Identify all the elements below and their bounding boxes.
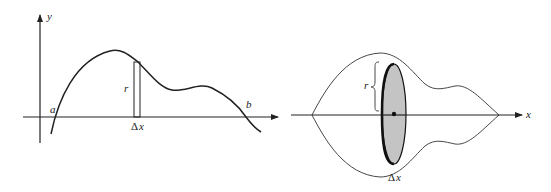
right-graph: x r Δ x [291,53,531,183]
label-delta: Δ [388,171,395,183]
disk-center-point [392,112,396,116]
thin-rectangle [134,62,140,117]
label-a: a [50,103,56,115]
label-r: r [364,79,369,91]
label-dx: x [138,120,144,132]
x-axis-label: x [525,108,531,120]
function-curve [51,50,261,134]
label-r: r [124,82,129,94]
figure-canvas: y a b r Δ x x r Δ x [0,0,551,192]
label-dx: x [395,171,401,183]
label-delta: Δ [131,120,138,132]
radius-brace [371,62,379,111]
left-graph: y a b r Δ x [23,10,278,143]
label-b: b [246,98,252,110]
y-axis-label: y [46,10,52,22]
